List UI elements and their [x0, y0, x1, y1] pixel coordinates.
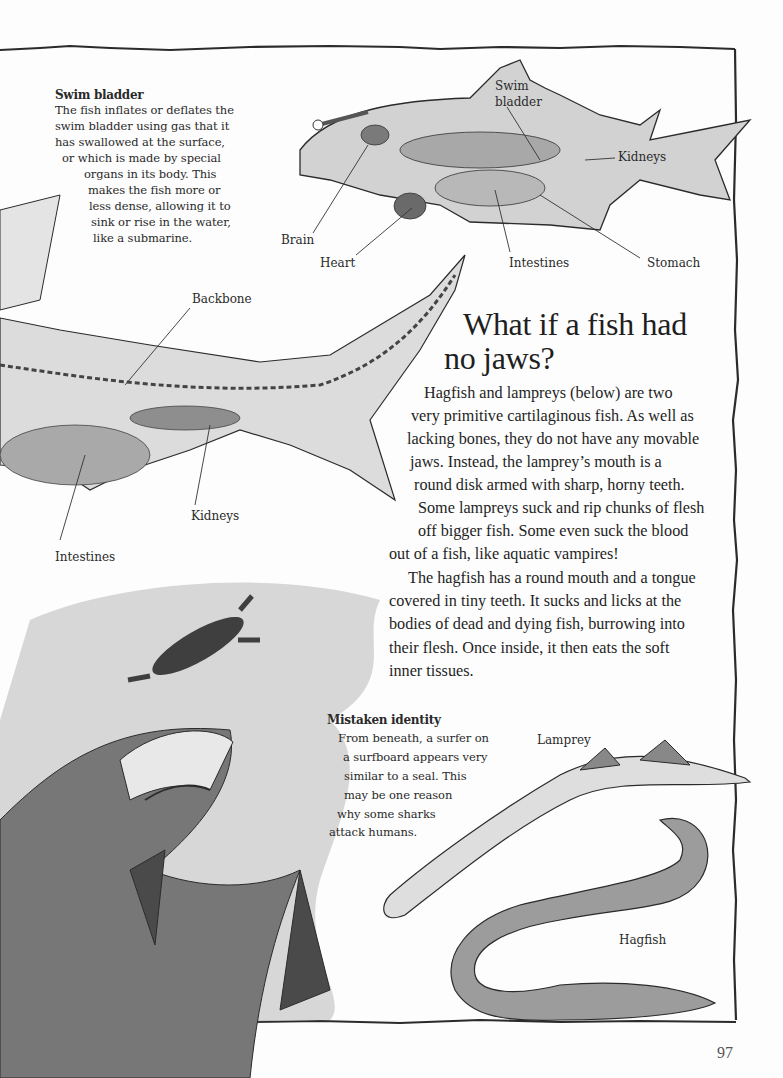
article-heading-line-2: no jaws? [444, 340, 554, 376]
mistaken-identity-line-6: attack humans. [329, 824, 417, 841]
label-lamprey: Lamprey [537, 733, 591, 747]
article-line: round disk armed with sharp, horny teeth… [414, 474, 685, 497]
mistaken-identity-line-4: may be one reason [344, 787, 452, 804]
article-line: bodies of dead and dying fish, burrowing… [389, 613, 685, 636]
article-line: jaws. Instead, the lamprey’s mouth is a [410, 451, 662, 474]
article-line: The hagfish has a round mouth and a tong… [408, 567, 696, 590]
label-hagfish: Hagfish [619, 933, 666, 947]
swim-bladder-line-5: organs in its body. This [84, 166, 216, 183]
mistaken-identity-title: Mistaken identity [327, 713, 441, 727]
label-swim-bladder: Swim bladder [495, 78, 542, 110]
article-line: off bigger fish. Some even suck the bloo… [418, 520, 688, 543]
label-kidneys-fish: Kidneys [618, 150, 666, 164]
article-line: covered in tiny teeth. It sucks and lick… [389, 590, 681, 613]
swim-bladder-line-2: swim bladder using gas that it [55, 118, 229, 135]
label-intestines-shark: Intestines [55, 550, 115, 564]
mistaken-identity-line-3: similar to a seal. This [344, 768, 466, 785]
article-line: Hagfish and lampreys (below) are two [424, 382, 673, 405]
label-stomach: Stomach [647, 256, 700, 270]
article-line: Some lampreys suck and rip chunks of fle… [418, 497, 704, 520]
article-line: lacking bones, they do not have any mova… [407, 428, 699, 451]
article-line: their flesh. Once inside, it then eats t… [389, 637, 670, 660]
swim-bladder-line-9: like a submarine. [93, 230, 192, 247]
mistaken-identity-line-1: From beneath, a surfer on [338, 730, 489, 747]
swim-bladder-line-7: less dense, allowing it to [89, 198, 231, 215]
swim-bladder-caption: Swim bladder [55, 88, 143, 102]
shark-cross-section-illustration [0, 195, 465, 540]
swim-bladder-line-3: has swallowed at the surface, [55, 134, 225, 151]
article-heading-line-1: What if a fish had [463, 306, 687, 342]
article-line: out of a fish, like aquatic vampires! [389, 543, 619, 566]
surfer-shark-illustration [0, 583, 380, 1078]
swim-bladder-line-4: or which is made by special [62, 150, 221, 167]
label-heart: Heart [320, 256, 355, 270]
label-kidneys-shark: Kidneys [191, 509, 239, 523]
label-intestines-fish: Intestines [509, 256, 569, 270]
swim-bladder-line-8: sink or rise in the water, [91, 214, 231, 231]
label-brain: Brain [281, 233, 314, 247]
mistaken-identity-line-2: a surfboard appears very [343, 749, 487, 766]
article-line: inner tissues. [389, 660, 474, 683]
article-line: very primitive cartilaginous fish. As we… [411, 405, 694, 428]
mistaken-identity-line-5: why some sharks [337, 806, 436, 823]
swim-bladder-line-6: makes the fish more or [88, 182, 221, 199]
swim-bladder-caption-title: Swim bladder [55, 88, 143, 102]
label-backbone: Backbone [192, 292, 252, 306]
swim-bladder-line-1: The fish inflates or deflates the [55, 102, 234, 119]
page-number: 97 [717, 1044, 733, 1062]
